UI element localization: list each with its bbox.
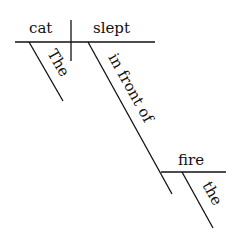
subject-word: cat — [29, 19, 52, 37]
object-word: fire — [178, 151, 204, 169]
preposition-word: in front of — [105, 50, 158, 126]
preposition-line — [88, 42, 172, 194]
predicate-word: slept — [93, 19, 130, 37]
sentence-diagram: cat slept The in front of fire the — [0, 0, 240, 246]
object-modifier-word: the — [199, 178, 227, 208]
